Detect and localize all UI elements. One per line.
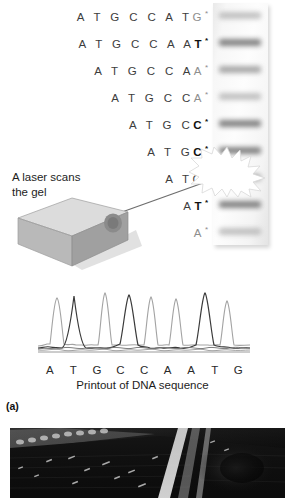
base-label-8: T (203, 364, 227, 378)
ladder-row-terminator: T* (194, 200, 208, 212)
base-label-5: C (132, 364, 156, 378)
ladder-row-bases: A (183, 200, 194, 212)
gel-band-1 (219, 12, 261, 19)
ladder-row-bases: A T G C (129, 119, 193, 131)
laser-scanner-label: A laser scans the gel (12, 170, 122, 199)
ladder-row-bases: A T G (147, 146, 193, 158)
ladder-row-9: A* (194, 224, 208, 239)
gel-band-4 (219, 93, 261, 100)
ladder-row-terminator: T* (194, 38, 208, 50)
gel-band-6 (219, 147, 261, 154)
ladder-row-3: A T G C C AA* (94, 62, 208, 77)
ladder-row-bases: A T G C C A T (77, 11, 193, 23)
ladder-row-terminator: A* (194, 65, 208, 77)
base-label-6: A (156, 364, 180, 378)
ladder-row-terminator: G* (193, 11, 208, 23)
figure-panel-a: A T G C C A TG* A T G C C A AT* A T G C … (0, 0, 285, 410)
ladder-row-8: AT* (183, 197, 208, 212)
laser-label-line-1: A laser scans (12, 170, 122, 185)
ladder-row-bases: A T G C C A (94, 65, 194, 77)
ladder-row-2: A T G C C A AT* (78, 35, 208, 50)
ladder-row-bases: A T G C C (111, 92, 194, 104)
gel-band-5 (219, 120, 261, 127)
gel-band-7-scanned (219, 174, 261, 181)
gel-band-3 (219, 66, 261, 73)
terminator-star: * (205, 117, 208, 126)
ladder-row-5: A T G CC* (129, 116, 208, 131)
gel-lane (213, 3, 268, 245)
terminator-star: * (205, 225, 208, 234)
ladder-row-4: A T G C CA* (111, 89, 208, 104)
gel-band-8 (219, 201, 261, 208)
terminator-star: * (205, 36, 208, 45)
ladder-row-bases: A T G C C A A (78, 38, 194, 50)
terminator-star: * (205, 198, 208, 207)
base-label-1: A (38, 364, 62, 378)
gel-band-2 (219, 39, 261, 46)
terminator-star: * (205, 9, 208, 18)
chromatogram-base-labels: A T G C C A A T G (38, 364, 250, 378)
ladder-row-7: A TG* (165, 170, 208, 185)
ladder-row-terminator: A* (194, 92, 208, 104)
sequencing-gel-photograph (10, 428, 285, 498)
base-label-7: A (179, 364, 203, 378)
base-label-9: G (227, 364, 251, 378)
terminator-star: * (205, 144, 208, 153)
printout-caption: Printout of DNA sequence (0, 379, 285, 391)
ladder-row-terminator: C* (193, 119, 208, 131)
base-label-3: G (85, 364, 109, 378)
base-label-2: T (62, 364, 86, 378)
gel-lane-inner (213, 3, 268, 245)
ladder-row-terminator: A* (194, 227, 208, 239)
figure-label-a: (a) (6, 400, 19, 412)
base-label-4: C (109, 364, 133, 378)
terminator-star: * (205, 63, 208, 72)
ladder-row-terminator: C* (193, 146, 208, 158)
ladder-row-terminator: G* (193, 173, 208, 185)
laser-label-line-2: the gel (12, 185, 122, 200)
gel-band-9 (219, 228, 261, 235)
ladder-row-6: A T GC* (147, 143, 208, 158)
chromatogram-trace (38, 288, 250, 360)
laser-scanner: A laser scans the gel (10, 170, 170, 275)
terminator-star: * (205, 90, 208, 99)
ladder-row-1: A T G C C A TG* (77, 8, 208, 23)
terminator-star: * (205, 171, 208, 180)
